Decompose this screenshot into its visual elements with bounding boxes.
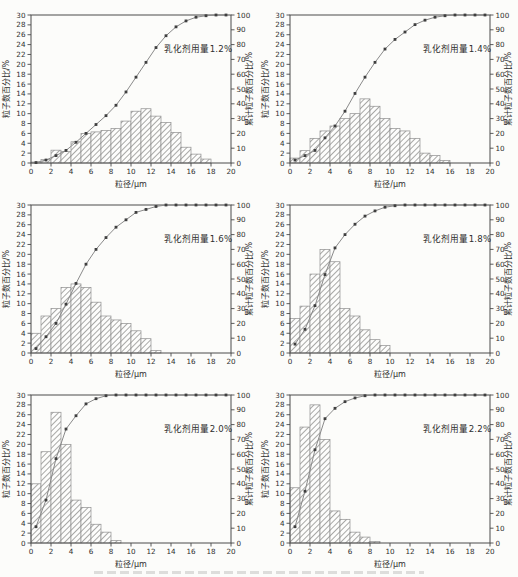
cumulative-marker [464, 394, 467, 397]
y-left-tick-label: 12 [275, 99, 284, 108]
cumulative-marker [125, 91, 128, 94]
cumulative-marker [314, 149, 317, 152]
x-tick-label: 14 [166, 547, 176, 556]
panel-emulsifier-1-6: 0246810121416182002468101214161820222426… [0, 190, 259, 380]
y-left-tick-label: 12 [275, 479, 284, 488]
cumulative-marker [55, 322, 58, 325]
cumulative-marker [65, 149, 68, 152]
x-tick-label: 0 [288, 167, 293, 176]
cumulative-marker [464, 204, 467, 207]
cumulative-marker [384, 394, 387, 397]
y-left-tick-label: 28 [16, 210, 26, 219]
histogram-bar [400, 131, 410, 163]
y-right-tick-label: 0 [237, 159, 242, 168]
y-right-tick-label: 10 [496, 144, 506, 153]
x-tick-label: 6 [89, 167, 94, 176]
y-axis-right-label: 累计粒子数百分比/% [503, 241, 513, 316]
y-axis-left-label: 粒子数百分比/% [1, 59, 11, 118]
x-tick-label: 0 [29, 357, 34, 366]
histogram-bar [340, 519, 350, 543]
histogram-bar [91, 302, 101, 353]
cumulative-marker [165, 394, 168, 397]
cumulative-marker [374, 61, 377, 64]
x-axis: 02468101214161820 [29, 163, 236, 176]
cumulative-marker [294, 159, 297, 162]
x-tick-label: 18 [206, 547, 216, 556]
y-left-tick-label: 6 [280, 129, 285, 138]
y-left-tick-label: 16 [16, 460, 26, 469]
y-left-tick-label: 14 [275, 469, 285, 478]
cumulative-marker [354, 223, 357, 226]
y-left-tick-label: 14 [16, 279, 26, 288]
histogram-bar [61, 152, 71, 163]
x-tick-label: 4 [328, 167, 333, 176]
histogram-bar [330, 511, 340, 543]
histogram-bars [31, 412, 121, 543]
cumulative-marker [155, 394, 158, 397]
y-right-tick-label: 0 [237, 539, 242, 548]
cumulative-marker [324, 273, 327, 276]
panel-emulsifier-1-4: 0246810121416182002468101214161820222426… [259, 0, 518, 190]
histogram-bar [430, 156, 440, 163]
cumulative-marker [105, 236, 108, 239]
x-axis-label: 粒径/μm [374, 369, 406, 379]
histogram-bar [370, 106, 380, 163]
x-tick-label: 0 [288, 547, 293, 556]
histogram-bar [151, 116, 161, 163]
cumulative-marker [354, 92, 357, 95]
x-tick-label: 10 [126, 357, 136, 366]
y-right-tick-label: 90 [237, 215, 247, 224]
y-left-tick-label: 18 [16, 260, 26, 269]
histogram-bar [380, 346, 390, 353]
cumulative-marker [75, 414, 78, 417]
cumulative-marker [95, 248, 98, 251]
y-right-tick-label: 0 [496, 159, 501, 168]
histogram-bar [61, 444, 71, 543]
particle-size-chart-1-6: 0246810121416182002468101214161820222426… [0, 190, 259, 380]
particle-size-chart-1-8: 0246810121416182002468101214161820222426… [259, 190, 518, 380]
y-right-tick-label: 100 [237, 11, 251, 20]
y-left-tick-label: 0 [21, 159, 26, 168]
y-right-tick-label: 80 [496, 40, 506, 49]
y-left-tick-label: 6 [280, 509, 285, 518]
y-left-tick-label: 30 [16, 391, 26, 400]
y-axis-right-label: 累计粒子数百分比/% [503, 51, 513, 126]
x-tick-label: 2 [49, 167, 54, 176]
x-axis: 02468101214161820 [288, 163, 495, 176]
cumulative-marker [454, 204, 457, 207]
y-left-tick-label: 30 [16, 201, 26, 210]
y-axis-left: 024681012141618202224262830 [275, 391, 290, 548]
x-tick-label: 16 [445, 547, 455, 556]
x-axis-label: 粒径/μm [374, 559, 406, 569]
y-left-tick-label: 18 [275, 450, 285, 459]
y-left-tick-label: 10 [16, 299, 26, 308]
x-tick-label: 10 [126, 167, 136, 176]
cumulative-marker [75, 282, 78, 285]
y-left-tick-label: 4 [280, 139, 285, 148]
x-tick-label: 8 [109, 357, 114, 366]
cumulative-marker [205, 204, 208, 207]
x-tick-label: 12 [405, 167, 414, 176]
x-tick-label: 20 [226, 547, 236, 556]
x-tick-label: 18 [465, 167, 475, 176]
x-tick-label: 0 [29, 547, 34, 556]
y-left-tick-label: 18 [275, 70, 285, 79]
y-left-tick-label: 24 [16, 420, 26, 429]
cumulative-marker [65, 428, 68, 431]
x-tick-label: 4 [328, 357, 333, 366]
y-left-tick-label: 26 [275, 220, 285, 229]
y-right-tick-label: 100 [237, 391, 251, 400]
histogram-bar [81, 133, 91, 163]
x-tick-label: 10 [385, 547, 395, 556]
y-left-tick-label: 2 [280, 339, 285, 348]
x-tick-label: 0 [29, 167, 34, 176]
y-left-tick-label: 12 [16, 479, 25, 488]
y-right-tick-label: 80 [237, 40, 247, 49]
histogram-bar [31, 333, 41, 353]
y-left-tick-label: 8 [280, 499, 285, 508]
cumulative-marker [75, 141, 78, 144]
x-tick-label: 16 [445, 357, 455, 366]
cumulative-marker [404, 394, 407, 397]
figure-page: 0246810121416182002468101214161820222426… [0, 0, 518, 577]
y-left-tick-label: 26 [16, 220, 26, 229]
